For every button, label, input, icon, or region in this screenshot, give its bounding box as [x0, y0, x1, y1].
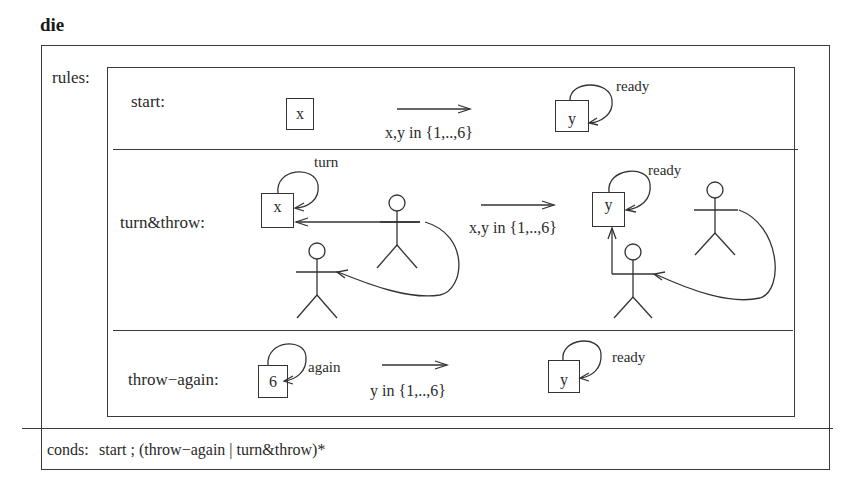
rules-frame	[107, 67, 795, 417]
state-value: y	[605, 196, 613, 214]
conds-divider	[22, 428, 833, 429]
state-value: x	[296, 105, 304, 123]
rule-throw-again-name: throw−again:	[128, 370, 219, 390]
rule-turn-throw-name: turn&throw:	[120, 213, 205, 233]
loop-label-turn: turn	[314, 154, 338, 171]
state-value: x	[274, 198, 282, 216]
loop-label-ready: ready	[648, 162, 681, 179]
state-box-x: x	[286, 98, 314, 130]
state-box-y: y	[592, 192, 625, 227]
state-box-y: y	[548, 360, 580, 393]
transition-label: y in {1,..,6}	[370, 382, 446, 400]
loop-label-again: again	[308, 359, 340, 376]
rule-start-name: start:	[131, 92, 165, 112]
state-box-y: y	[555, 100, 589, 132]
rules-label: rules:	[52, 68, 90, 88]
diagram-title: die	[40, 14, 64, 36]
state-value: y	[568, 110, 576, 128]
transition-label: x,y in {1,..,6}	[385, 124, 473, 142]
rule-divider	[113, 330, 793, 331]
state-value: 6	[269, 373, 277, 391]
loop-label-ready: ready	[616, 78, 649, 95]
state-value: y	[560, 371, 568, 389]
rule-divider	[113, 149, 798, 150]
state-box-six: 6	[258, 365, 288, 398]
loop-label-ready: ready	[612, 349, 645, 366]
conds-expression: start ; (throw−again | turn&throw)*	[99, 441, 325, 459]
transition-label: x,y in {1,..,6}	[469, 219, 557, 237]
state-box-x: x	[261, 193, 294, 228]
conds-label: conds:	[47, 441, 89, 459]
